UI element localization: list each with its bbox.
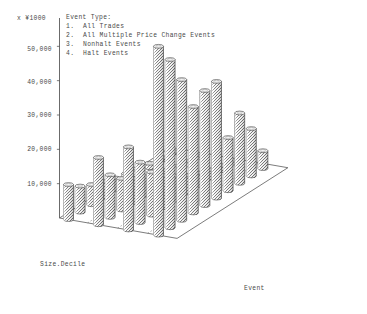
bar-cylinder xyxy=(64,183,74,222)
bar-cylinder xyxy=(246,127,256,178)
bar-cylinder xyxy=(235,111,245,185)
bar-cylinder xyxy=(258,149,268,171)
bar-cylinder xyxy=(94,156,104,227)
bar-cylinder xyxy=(124,145,134,232)
y-axis xyxy=(57,18,60,218)
bar-cylinder xyxy=(154,44,164,237)
bar-cylinder xyxy=(177,78,187,223)
bar-cylinder xyxy=(165,58,175,230)
bar-cylinder xyxy=(188,105,198,215)
bar-cylinder xyxy=(135,160,145,224)
plot-area xyxy=(0,0,367,314)
bar-cylinder xyxy=(212,80,222,201)
bar-cylinder xyxy=(223,136,233,193)
bar-cylinder xyxy=(200,89,210,208)
bar-cylinder xyxy=(75,184,85,214)
chart-canvas: x ¥1000 50,000 40,000 30,000 20,000 10,0… xyxy=(0,0,367,314)
bar-cylinder xyxy=(105,173,115,219)
